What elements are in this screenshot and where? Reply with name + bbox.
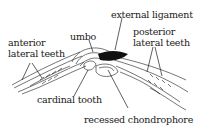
label-recessed-chondrophore: recessed chondrophore (84, 115, 193, 125)
label-anterior-line1: anterior (8, 38, 45, 48)
label-posterior-line1: posterior (133, 27, 175, 37)
label-umbo: umbo (70, 32, 96, 42)
label-cardinal-tooth: cardinal tooth (37, 95, 102, 105)
label-external-ligament: external ligament (111, 10, 193, 20)
external-ligament-shape (98, 51, 128, 61)
label-anterior-line2: lateral teeth (8, 49, 65, 59)
label-posterior-line2: lateral teeth (133, 38, 190, 48)
hinge-diagram: umbo external ligament anterior lateral … (0, 0, 199, 129)
